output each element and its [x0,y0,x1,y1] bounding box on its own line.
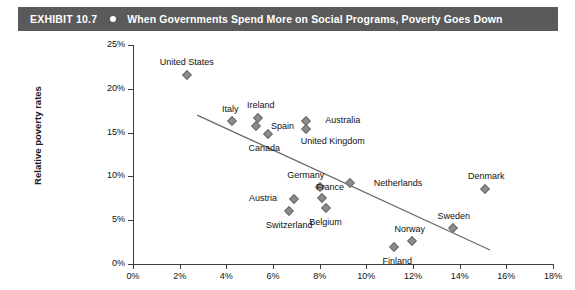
data-point-label: Belgium [309,217,342,227]
x-tick-label: 12% [393,271,433,281]
data-point-label: Finland [383,256,413,266]
data-point-label: Germany [287,170,324,180]
y-tick-label: 10% [91,170,125,180]
x-tick-label: 16% [486,271,526,281]
data-point-label: Italy [222,104,239,114]
data-point-label: Austria [249,193,277,203]
y-axis-title: Relative poverty rates [32,51,43,221]
x-tick-mark [553,264,554,269]
x-tick-mark [273,264,274,269]
data-point-label: Spain [271,121,294,131]
y-tick-label: 25% [91,39,125,49]
x-tick-mark [133,264,134,269]
x-tick-mark [226,264,227,269]
x-tick-mark [460,264,461,269]
x-axis-line [133,264,554,265]
data-point-label: Canada [249,143,281,153]
x-tick-mark [180,264,181,269]
x-tick-label: 8% [300,271,340,281]
x-tick-label: 6% [253,271,293,281]
data-point-label: United States [160,57,214,67]
x-tick-mark [320,264,321,269]
data-point-label: Netherlands [374,178,423,188]
y-tick-label: 15% [91,127,125,137]
data-point-label: Ireland [247,100,275,110]
exhibit-number: EXHIBIT 10.7 [30,13,97,25]
y-tick-label: 20% [91,83,125,93]
trend-line [133,45,553,264]
dot-icon [110,16,116,22]
data-point-label: Australia [325,115,360,125]
exhibit-title: When Governments Spend More on Social Pr… [127,13,502,25]
x-tick-label: 2% [160,271,200,281]
x-tick-label: 4% [206,271,246,281]
data-point-label: Switzerland [266,220,313,230]
data-point-label: Sweden [437,211,470,221]
y-tick-label: 0% [91,258,125,268]
exhibit-header-bar: EXHIBIT 10.7 When Governments Spend More… [18,7,558,31]
data-point-label: Denmark [468,171,505,181]
x-tick-mark [506,264,507,269]
x-tick-label: 14% [440,271,480,281]
x-tick-label: 10% [346,271,386,281]
data-point-label: France [316,182,344,192]
scatter-chart: Relative poverty rates 0%5%10%15%20%25% … [0,34,575,290]
data-point-label: United Kingdom [301,136,365,146]
y-tick-label: 5% [91,214,125,224]
x-tick-mark [413,264,414,269]
x-tick-mark [366,264,367,269]
data-point-label: Norway [395,224,426,234]
x-tick-label: 0% [113,271,153,281]
x-tick-label: 18% [533,271,573,281]
plot-area: United StatesItalyIrelandSpainCanadaAust… [133,45,553,264]
